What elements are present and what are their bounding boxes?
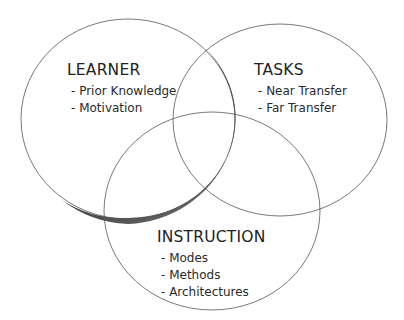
tasks-item: - Near Transfer xyxy=(258,85,347,97)
tasks-title: TASKS xyxy=(254,63,347,79)
tasks-item: - Far Transfer xyxy=(258,102,347,114)
learner-item: - Prior Knowledge xyxy=(71,85,177,97)
learner-item: - Motivation xyxy=(71,102,177,114)
learner-circle xyxy=(21,19,235,219)
instruction-item: - Modes xyxy=(161,252,265,264)
tasks-circle xyxy=(173,24,387,216)
instruction-title: INSTRUCTION xyxy=(157,230,265,246)
instruction-item: - Methods xyxy=(161,269,265,281)
learner-title: LEARNER xyxy=(67,63,177,79)
tasks-label-group: TASKS - Near Transfer - Far Transfer xyxy=(254,63,347,119)
learner-label-group: LEARNER - Prior Knowledge - Motivation xyxy=(67,63,177,119)
instruction-label-group: INSTRUCTION - Modes - Methods - Architec… xyxy=(157,230,265,303)
instruction-item: - Architectures xyxy=(161,286,265,298)
